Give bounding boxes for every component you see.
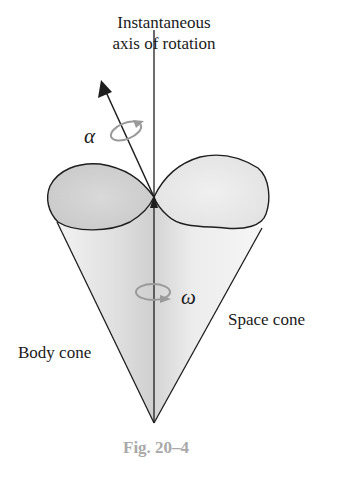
axis-label-line1: Instantaneous [84, 12, 244, 33]
space-cone-label: Space cone [228, 310, 305, 330]
cone-diagram [0, 0, 346, 487]
axis-label-line2: axis of rotation [84, 33, 244, 54]
body-cone-label: Body cone [18, 343, 91, 363]
figure-caption: Fig. 20–4 [123, 438, 189, 458]
figure-canvas: Instantaneous axis of rotation α ω Space… [0, 0, 346, 487]
alpha-rotation-arrowhead-icon [133, 120, 144, 128]
alpha-label: α [84, 124, 95, 149]
space-cone-base [154, 155, 269, 228]
axis-label: Instantaneous axis of rotation [84, 12, 244, 54]
omega-label: ω [181, 285, 196, 310]
body-cone [57, 200, 154, 423]
alpha-arrowhead-icon [98, 80, 112, 98]
